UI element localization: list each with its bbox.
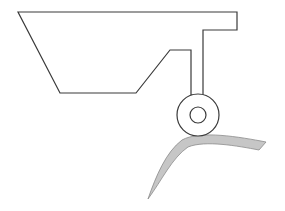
security-camera-illustration: Security camera line drawing xyxy=(0,0,285,211)
pivot-outer-ring-icon xyxy=(177,94,219,136)
camera-body-icon xyxy=(18,12,237,95)
mount-bracket-icon xyxy=(148,135,266,199)
